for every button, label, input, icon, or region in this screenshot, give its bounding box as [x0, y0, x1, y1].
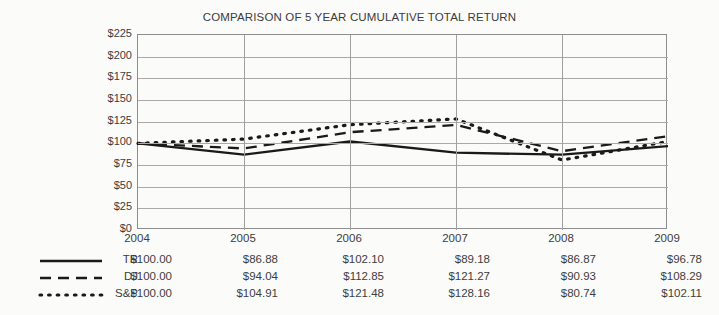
legend-row: DJ$100.00$94.04$112.85$121.27$90.93$108.… — [0, 269, 719, 286]
y-axis-tick-label: $150 — [82, 92, 132, 104]
y-axis-tick-label: $225 — [82, 27, 132, 39]
gridline-horizontal — [138, 187, 668, 188]
x-axis-tick-label: 2006 — [309, 232, 389, 244]
data-cell: $90.93 — [510, 270, 596, 282]
x-axis-tick-label: 2008 — [521, 232, 601, 244]
chart-title: COMPARISON OF 5 YEAR CUMULATIVE TOTAL RE… — [0, 11, 719, 23]
data-cell: $100.00 — [86, 287, 172, 299]
series-line-s-p — [138, 119, 668, 160]
chart-page: COMPARISON OF 5 YEAR CUMULATIVE TOTAL RE… — [0, 0, 719, 315]
data-cell: $108.29 — [616, 270, 702, 282]
gridline-vertical — [456, 35, 457, 230]
data-cell: $80.74 — [510, 287, 596, 299]
plot-area — [137, 34, 667, 229]
gridline-horizontal — [138, 143, 668, 144]
y-axis-tick-label: $25 — [82, 200, 132, 212]
y-axis-labels: $225$200$175$150$125$100$75$50$25$0 — [82, 34, 132, 229]
x-axis-tick-label: 2005 — [203, 232, 283, 244]
data-cell: $121.27 — [404, 270, 490, 282]
legend-row: S&P$100.00$104.91$121.48$128.16$80.74$10… — [0, 286, 719, 303]
data-cell: $96.78 — [616, 253, 702, 265]
y-axis-tick-label: $100 — [82, 135, 132, 147]
gridline-horizontal — [138, 100, 668, 101]
legend-and-data-table: TR$100.00$86.88$102.10$89.18$86.87$96.78… — [0, 252, 719, 303]
data-cell: $89.18 — [404, 253, 490, 265]
data-cell: $100.00 — [86, 270, 172, 282]
gridline-horizontal — [138, 78, 668, 79]
y-axis-tick-label: $175 — [82, 70, 132, 82]
data-cell: $102.11 — [616, 287, 702, 299]
x-axis-labels: 200420052006200720082009 — [0, 232, 719, 250]
gridline-vertical — [562, 35, 563, 230]
gridline-horizontal — [138, 57, 668, 58]
data-cell: $102.10 — [298, 253, 384, 265]
gridline-horizontal — [138, 122, 668, 123]
data-cell: $121.48 — [298, 287, 384, 299]
y-axis-tick-label: $50 — [82, 179, 132, 191]
data-cell: $104.91 — [192, 287, 278, 299]
y-axis-tick-label: $200 — [82, 49, 132, 61]
y-axis-tick-label: $125 — [82, 114, 132, 126]
series-lines — [138, 35, 668, 230]
gridline-vertical — [244, 35, 245, 230]
x-axis-tick-label: 2007 — [415, 232, 495, 244]
y-axis-tick-label: $75 — [82, 157, 132, 169]
legend-row: TR$100.00$86.88$102.10$89.18$86.87$96.78 — [0, 252, 719, 269]
gridline-horizontal — [138, 165, 668, 166]
data-cell: $128.16 — [404, 287, 490, 299]
data-cell: $112.85 — [298, 270, 384, 282]
data-cell: $86.87 — [510, 253, 596, 265]
x-axis-tick-label: 2004 — [97, 232, 177, 244]
gridline-horizontal — [138, 208, 668, 209]
data-cell: $86.88 — [192, 253, 278, 265]
data-cell: $94.04 — [192, 270, 278, 282]
x-axis-tick-label: 2009 — [627, 232, 707, 244]
data-cell: $100.00 — [86, 253, 172, 265]
gridline-vertical — [350, 35, 351, 230]
